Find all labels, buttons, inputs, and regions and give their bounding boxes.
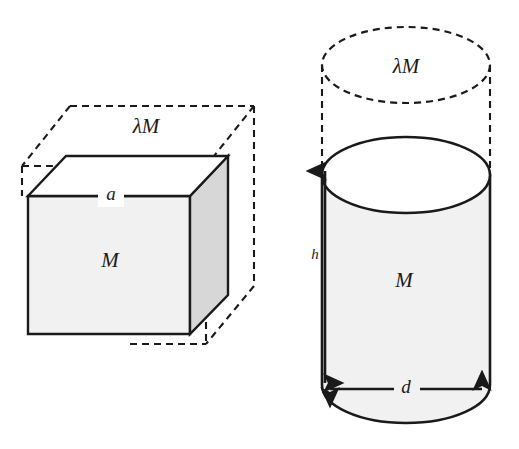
cylinder-scaled-mass-label: λM — [392, 54, 421, 78]
cube-mass-label: M — [100, 248, 120, 272]
figure-root: λM a M λM M — [0, 0, 519, 449]
cube-scaled-mass-label: λM — [132, 114, 161, 138]
cube-edge-label: a — [106, 183, 116, 204]
cylinder-height-label: h — [311, 246, 319, 262]
cube-diagram: λM a M — [22, 106, 254, 344]
cylinder-diagram: λM M h d — [311, 27, 490, 423]
cylinder-diameter-label: d — [401, 376, 411, 397]
cylinder-top-ellipse — [322, 137, 490, 213]
cylinder-mass-label: M — [394, 268, 414, 292]
figure-canvas: λM a M λM M — [0, 0, 519, 449]
